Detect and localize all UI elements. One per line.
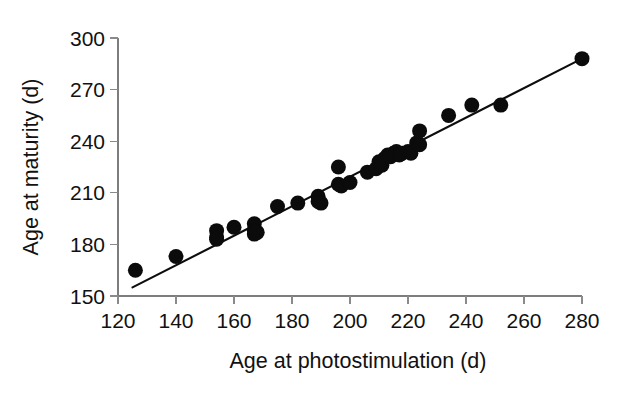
data-point [343, 175, 358, 190]
x-axis-tick-label: 220 [390, 309, 425, 332]
x-axis-tick-label: 280 [564, 309, 599, 332]
data-point [250, 225, 265, 240]
plot-layer: 1501802102402703001201401601802002202402… [19, 27, 600, 374]
y-axis-tick-label: 300 [70, 27, 105, 50]
x-axis-tick-label: 260 [506, 309, 541, 332]
data-point [290, 196, 305, 211]
x-axis-title: Age at photostimulation (d) [230, 349, 487, 373]
regression-line [133, 59, 583, 288]
data-point [227, 220, 242, 235]
y-axis-tick-label: 180 [70, 233, 105, 256]
y-axis-tick-label: 270 [70, 78, 105, 101]
x-axis-tick-label: 140 [158, 309, 193, 332]
data-point [464, 98, 479, 113]
y-axis-tick-label: 150 [70, 285, 105, 308]
chart-canvas: 1501802102402703001201401601802002202402… [0, 0, 634, 404]
data-point [575, 51, 590, 66]
x-axis-tick-label: 200 [332, 309, 367, 332]
data-point [331, 160, 346, 175]
data-point [128, 263, 143, 278]
data-point [493, 98, 508, 113]
data-point [209, 232, 224, 247]
data-point [169, 249, 184, 264]
x-axis-tick-label: 120 [100, 309, 135, 332]
data-point [314, 196, 329, 211]
scatter-plot-figure: 1501802102402703001201401601802002202402… [0, 0, 634, 404]
y-axis-title: Age at maturity (d) [19, 79, 43, 256]
x-axis-tick-label: 240 [448, 309, 483, 332]
data-point [412, 137, 427, 152]
x-axis-tick-label: 180 [274, 309, 309, 332]
data-point [441, 108, 456, 123]
data-point [270, 199, 285, 214]
y-axis-tick-label: 210 [70, 181, 105, 204]
y-axis-tick-label: 240 [70, 130, 105, 153]
data-point [412, 123, 427, 138]
x-axis-tick-label: 160 [216, 309, 251, 332]
